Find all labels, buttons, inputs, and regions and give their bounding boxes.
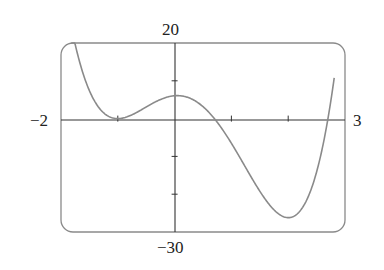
chart-plot-area xyxy=(0,0,384,270)
y-min-label: −30 xyxy=(157,239,184,256)
function-curve xyxy=(71,43,334,218)
y-max-label: 20 xyxy=(162,21,179,38)
viewing-window-frame xyxy=(61,43,345,232)
axis-ticks xyxy=(118,81,288,194)
x-min-label: −2 xyxy=(30,112,48,129)
x-max-label: 3 xyxy=(353,112,362,129)
